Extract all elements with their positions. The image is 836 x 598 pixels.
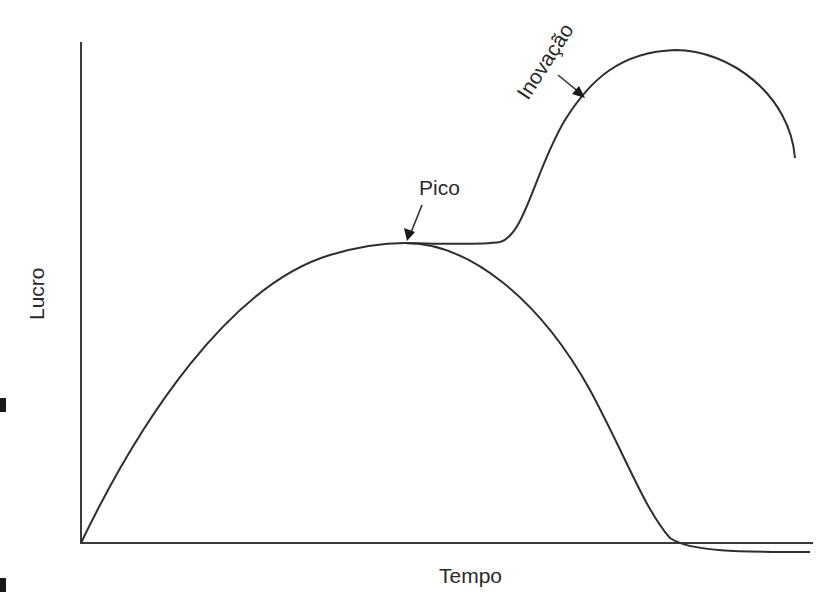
peak-arrow [410,205,422,235]
peak-arrowhead-icon [404,228,415,241]
crop-mark [0,578,6,592]
innovation-label: Inovação [512,19,578,103]
decline-curve [81,243,810,552]
profit-cycle-chart: Pico Inovação Lucro Tempo [0,0,836,598]
y-axis-label: Lucro [25,267,48,320]
peak-label: Pico [419,176,460,199]
innovation-curve [405,50,795,244]
crop-mark [0,398,6,412]
x-axis-label: Tempo [439,564,502,587]
